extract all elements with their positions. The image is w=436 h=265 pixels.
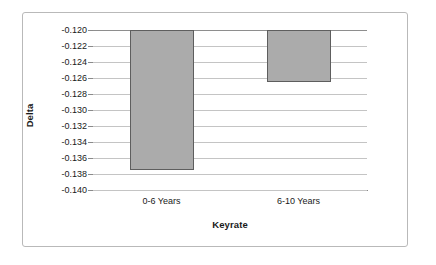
y-axis-tick-label: -0.132 [42,121,87,131]
y-axis-tick-label: -0.124 [42,57,87,67]
y-axis-tick-labels: -0.120-0.122-0.124-0.126-0.128-0.130-0.1… [42,30,87,190]
gridline [93,190,367,191]
y-axis-tick-label: -0.128 [42,89,87,99]
bar [130,30,194,170]
bar [267,30,331,82]
x-axis-category-label: 0-6 Years [93,196,230,206]
y-axis-tick-label: -0.136 [42,153,87,163]
x-axis-title: Keyrate [93,219,367,230]
plot-area [93,30,367,190]
y-axis-tick-label: -0.140 [42,185,87,195]
bar-chart-figure: Delta -0.120-0.122-0.124-0.126-0.128-0.1… [0,0,436,265]
gridline [93,174,367,175]
y-axis-tick-label: -0.120 [42,25,87,35]
y-axis-title-label: Delta [25,103,36,127]
y-axis-tick-label: -0.122 [42,41,87,51]
x-axis-category-label: 6-10 Years [230,196,367,206]
y-axis-title: Delta [22,85,38,145]
y-axis-tick-label: -0.138 [42,169,87,179]
y-axis-tick-label: -0.130 [42,105,87,115]
y-axis-tick-label: -0.134 [42,137,87,147]
x-axis-category-labels: 0-6 Years6-10 Years [93,196,367,210]
y-axis-tick-label: -0.126 [42,73,87,83]
